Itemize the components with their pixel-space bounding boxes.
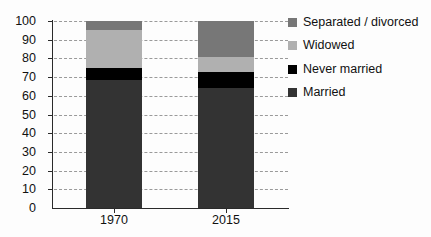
legend-item-widowed[interactable]: Widowed <box>288 36 431 56</box>
legend-swatch-icon-married <box>288 88 297 97</box>
bar-segment-1970-widowed[interactable] <box>86 30 142 67</box>
x-tick-label-2015: 2015 <box>198 213 254 227</box>
legend-label-married: Married <box>303 86 345 99</box>
legend-swatch-icon-never-married <box>288 65 297 74</box>
bar-2015[interactable] <box>198 21 254 208</box>
bar-segment-1970-married[interactable] <box>86 80 142 208</box>
bar-segment-2015-married[interactable] <box>198 88 254 208</box>
legend-label-never-married: Never married <box>303 63 382 76</box>
legend-item-never-married[interactable]: Never married <box>288 59 431 79</box>
bar-segment-2015-widowed[interactable] <box>198 57 254 72</box>
bar-segment-1970-separated-divorced[interactable] <box>86 21 142 30</box>
legend-label-widowed: Widowed <box>303 39 354 52</box>
bar-segment-1970-never-married[interactable] <box>86 68 142 80</box>
legend-swatch-icon-widowed <box>288 41 297 50</box>
legend-item-married[interactable]: Married <box>288 83 431 103</box>
legend-swatch-icon-separated-divorced <box>288 18 297 27</box>
legend: Separated / divorced Widowed Never marri… <box>288 12 431 106</box>
bar-segment-2015-separated-divorced[interactable] <box>198 21 254 57</box>
legend-item-separated-divorced[interactable]: Separated / divorced <box>288 12 431 32</box>
x-tick-label-1970: 1970 <box>86 213 142 227</box>
bar-1970[interactable] <box>86 21 142 208</box>
legend-label-separated-divorced: Separated / divorced <box>303 16 418 29</box>
stacked-bar-chart: 100 90 80 70 60 50 40 30 20 10 0 <box>0 0 431 237</box>
bar-segment-2015-never-married[interactable] <box>198 72 254 89</box>
